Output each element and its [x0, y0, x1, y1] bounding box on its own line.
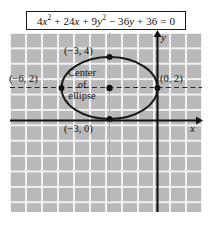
point-top-vertex — [107, 54, 113, 60]
center-annotation: Center of ellipse — [57, 67, 107, 102]
label-bottom-vertex: (−3, 0) — [64, 123, 93, 134]
point-center — [106, 85, 112, 91]
center-annotation-line-2: of — [57, 79, 107, 91]
center-annotation-line-1: Center — [57, 67, 107, 79]
equation-text: 4x2 + 24x + 9y2 − 36y + 36 = 0 — [37, 15, 175, 27]
point-right-vertex — [155, 85, 161, 91]
y-axis-label: y — [161, 31, 166, 43]
x-axis-label: x — [190, 122, 195, 134]
plot-overlay — [0, 0, 213, 226]
point-bottom-vertex — [107, 116, 113, 122]
equation-box: 4x2 + 24x + 9y2 − 36y + 36 = 0 — [26, 11, 186, 30]
label-top-vertex: (−3, 4) — [64, 45, 93, 56]
label-left-vertex: (−6, 2) — [9, 73, 38, 84]
ellipse-figure: 4x2 + 24x + 9y2 − 36y + 36 = 0 (−3, 4) (… — [0, 0, 213, 226]
label-right-vertex: (0, 2) — [160, 73, 183, 84]
x-axis-arrow — [196, 117, 203, 125]
center-annotation-line-3: ellipse — [57, 90, 107, 102]
